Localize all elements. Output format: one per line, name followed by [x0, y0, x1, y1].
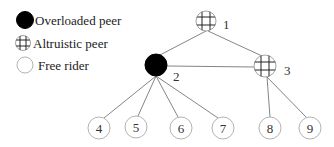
edge-2-5	[138, 76, 156, 116]
node-label-6: 6	[178, 121, 185, 136]
edge-3-8	[267, 77, 270, 117]
node-label-4: 4	[96, 121, 103, 136]
node-label-3: 3	[284, 63, 291, 78]
node-7: 7	[212, 117, 234, 139]
node-4: 4	[88, 117, 110, 139]
node-label-1: 1	[223, 17, 230, 32]
altruistic-peer-icon	[14, 34, 32, 52]
node-label-8: 8	[267, 121, 274, 136]
legend-item-overloaded: Overloaded peer	[17, 12, 122, 29]
legend-item-altruistic: Altruistic peer	[14, 34, 108, 52]
legend: Overloaded peer Altruistic peer Free rid…	[14, 12, 122, 74]
edge-3-9	[267, 77, 307, 118]
node-5: 5	[125, 116, 147, 138]
node-1: 1	[195, 10, 230, 32]
edges	[104, 31, 307, 118]
node-8: 8	[259, 117, 281, 139]
peer-network-diagram: Overloaded peer Altruistic peer Free rid…	[0, 0, 334, 147]
node-3: 3	[253, 54, 291, 78]
edge-2-4	[104, 76, 156, 118]
node-6: 6	[170, 117, 192, 139]
node-label-5: 5	[133, 120, 140, 135]
legend-label-altruistic: Altruistic peer	[33, 36, 108, 51]
legend-item-free: Free rider	[17, 57, 90, 73]
node-9: 9	[299, 117, 321, 139]
legend-label-overloaded: Overloaded peer	[35, 13, 122, 28]
node-label-2: 2	[173, 69, 180, 84]
edge-1-3	[208, 31, 262, 56]
overloaded-peer-icon	[17, 12, 34, 29]
node-label-9: 9	[307, 121, 314, 136]
edge-2-3	[167, 66, 254, 67]
legend-label-free: Free rider	[38, 58, 90, 73]
free-rider-icon	[17, 57, 33, 73]
node-2: 2	[145, 54, 180, 84]
edge-2-7	[156, 76, 218, 118]
node-label-7: 7	[220, 121, 227, 136]
edge-1-2	[160, 31, 206, 55]
